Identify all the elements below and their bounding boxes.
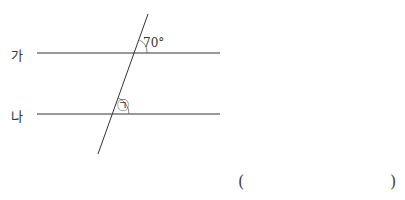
- angle-label-unknown: ㉠: [117, 96, 129, 113]
- answer-open-paren: (: [238, 172, 244, 191]
- angle-label-70: 70°: [143, 36, 164, 50]
- line-label-na: 나: [11, 106, 23, 125]
- transversal-line: [98, 14, 148, 154]
- answer-close-paren: ): [390, 172, 396, 191]
- parallel-lines-diagram: [0, 0, 405, 200]
- line-label-ga: 가: [11, 45, 23, 64]
